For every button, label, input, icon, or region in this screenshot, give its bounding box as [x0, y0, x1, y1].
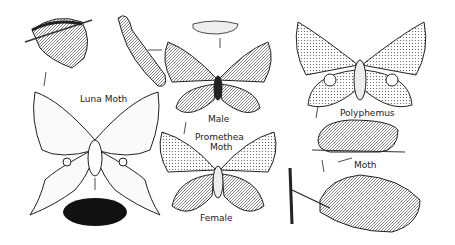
arrow — [44, 72, 46, 86]
polyphemus-caterpillar — [312, 120, 405, 152]
label-male: Male — [208, 114, 229, 124]
moth-illustration: Luna Moth Male Promethea Moth Female Pol… — [0, 0, 455, 245]
luna-moth — [30, 92, 160, 215]
label-polyphemus: Polyphemus — [340, 108, 395, 118]
label-luna-moth: Luna Moth — [80, 94, 127, 104]
polyphemus-cocoon — [290, 168, 420, 232]
luna-caterpillar — [25, 18, 92, 68]
luna-cocoon — [63, 198, 127, 226]
label-female: Female — [200, 213, 233, 223]
polyphemus-moth — [296, 22, 426, 107]
label-promethea: Promethea — [195, 132, 244, 142]
promethea-cocoon — [118, 16, 166, 87]
label-moth: Moth — [354, 160, 377, 170]
label-promethea-moth: Moth — [210, 142, 233, 152]
promethea-caterpillar — [193, 21, 238, 34]
promethea-male — [165, 42, 271, 113]
